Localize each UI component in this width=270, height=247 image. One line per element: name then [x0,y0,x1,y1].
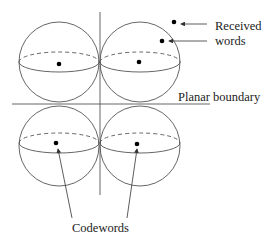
codeword-dot [137,60,142,65]
received-label-line2: words [215,35,246,48]
sphere-top-right [100,22,180,102]
codeword-dot [57,62,62,67]
received-word-dot [172,20,177,25]
sphere-bottom-right [100,106,180,186]
codeword-dot [54,141,59,146]
received-word-dot [160,39,165,44]
arrow-codeword-left [58,149,72,218]
planar-boundary-label: Planar boundary [178,91,260,104]
codeword-dot [135,142,140,147]
arrow-codeword-right [127,149,137,218]
received-label-line1: Received [215,20,262,33]
sphere-bottom-left [19,106,99,186]
sphere-top-left [19,22,99,102]
codewords-label: Codewords [72,222,129,235]
